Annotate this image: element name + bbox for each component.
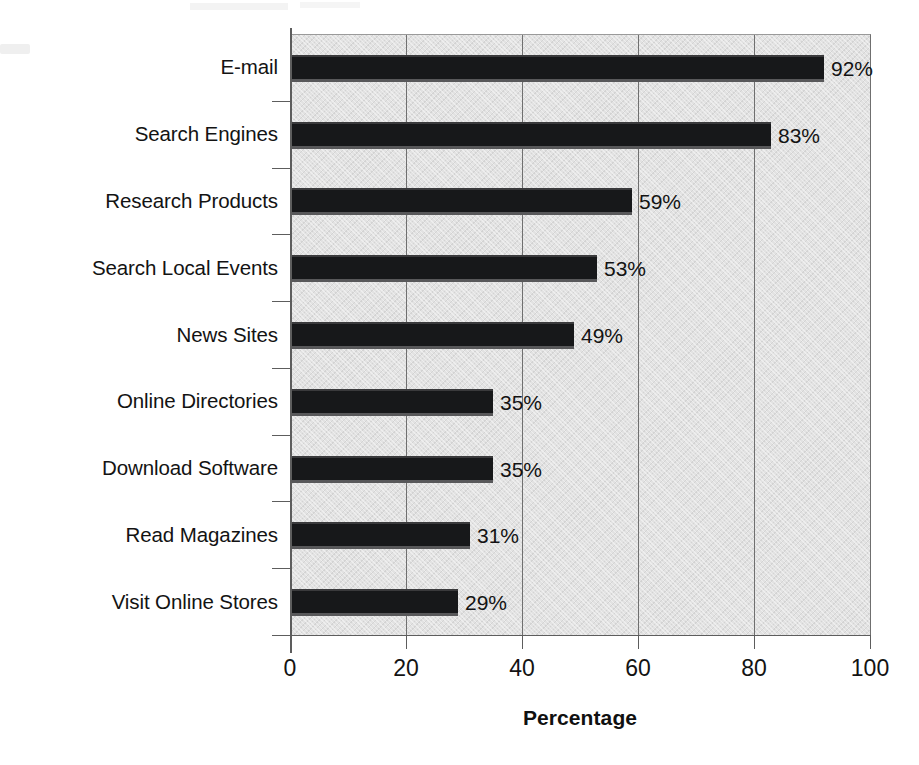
x-axis-tick-label: 0 — [284, 657, 297, 680]
y-axis-tick — [272, 234, 290, 235]
x-axis-tick — [638, 635, 639, 649]
bar — [290, 255, 597, 282]
x-axis-tick — [522, 635, 523, 649]
category-label: Download Software — [0, 458, 278, 479]
bar-value-label: 35% — [500, 392, 542, 413]
x-axis-tick-label: 60 — [625, 657, 651, 680]
category-label: Read Magazines — [0, 525, 278, 546]
bar — [290, 322, 574, 349]
x-axis-tick-label: 40 — [509, 657, 535, 680]
category-label: Research Products — [0, 191, 278, 212]
gridline — [870, 35, 871, 636]
scan-artifact — [190, 3, 288, 10]
bar-value-label: 35% — [500, 459, 542, 480]
bar — [290, 389, 493, 416]
x-axis-line — [272, 635, 871, 636]
x-axis-tick — [754, 635, 755, 649]
bar-value-label: 31% — [477, 525, 519, 546]
category-label: Search Engines — [0, 124, 278, 145]
bar-chart: E-mail Search Engines Research Products … — [0, 0, 919, 765]
bar-value-label: 29% — [465, 592, 507, 613]
category-label: E-mail — [0, 57, 278, 78]
bar — [290, 55, 824, 82]
x-axis-tick-label: 20 — [393, 657, 419, 680]
y-axis-tick — [272, 501, 290, 502]
category-label: Visit Online Stores — [0, 592, 278, 613]
x-axis-tick — [870, 635, 871, 649]
y-axis-tick — [272, 101, 290, 102]
bar — [290, 522, 470, 549]
y-axis-line — [290, 28, 292, 653]
x-axis-tick-label: 80 — [741, 657, 767, 680]
scan-artifact — [300, 2, 360, 8]
y-axis-tick — [272, 168, 290, 169]
bar-value-label: 59% — [639, 191, 681, 212]
bar-value-label: 83% — [778, 125, 820, 146]
x-axis-tick — [290, 635, 291, 649]
category-label: Online Directories — [0, 391, 278, 412]
bar-value-label: 92% — [831, 58, 873, 79]
bar — [290, 456, 493, 483]
bar — [290, 589, 458, 616]
category-label: News Sites — [0, 325, 278, 346]
category-label: Search Local Events — [0, 258, 278, 279]
x-axis-title: Percentage — [290, 706, 870, 730]
bar — [290, 188, 632, 215]
y-axis-tick — [272, 568, 290, 569]
y-axis-tick — [272, 435, 290, 436]
x-axis-tick — [406, 635, 407, 649]
bar-value-label: 49% — [581, 325, 623, 346]
bar — [290, 122, 771, 149]
y-axis-tick — [272, 368, 290, 369]
y-axis-tick — [272, 301, 290, 302]
x-axis-tick-label: 100 — [851, 657, 889, 680]
category-axis-labels: E-mail Search Engines Research Products … — [0, 34, 278, 635]
bar-value-label: 53% — [604, 258, 646, 279]
